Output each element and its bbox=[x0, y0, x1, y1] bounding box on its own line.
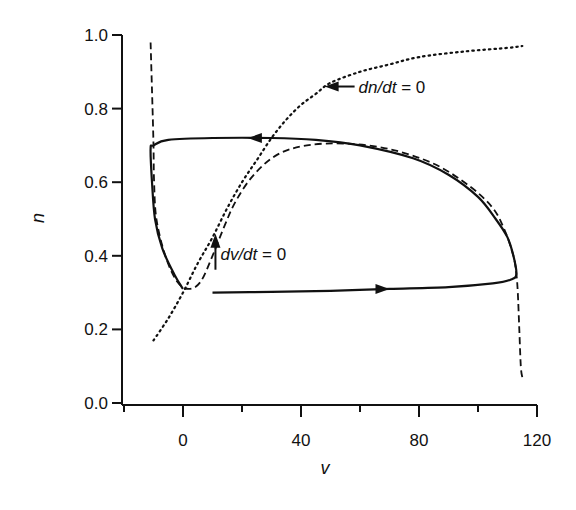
y-tick-label: 0.2 bbox=[84, 320, 108, 339]
y-tick-label: 0.0 bbox=[84, 394, 108, 413]
y-axis-label: n bbox=[28, 213, 48, 223]
axes bbox=[112, 35, 537, 417]
direction-arrow-icon bbox=[376, 284, 390, 294]
y-tick-label: 0.6 bbox=[84, 173, 108, 192]
x-tick-label: 80 bbox=[410, 431, 429, 450]
x-axis-label: v bbox=[321, 458, 331, 478]
dv-dt-label: dv/dt = 0 bbox=[220, 245, 286, 264]
x-tick-label: 40 bbox=[292, 431, 311, 450]
v-nullcline-curve bbox=[151, 42, 523, 377]
y-tick-label: 0.4 bbox=[84, 247, 108, 266]
y-tick-label: 0.8 bbox=[84, 100, 108, 119]
x-tick-label: 120 bbox=[523, 431, 551, 450]
tick-labels: 0.00.20.40.60.81.004080120 bbox=[84, 26, 551, 450]
phase-plane-chart: 0.00.20.40.60.81.004080120 dn/dt = 0dv/d… bbox=[0, 0, 576, 510]
y-tick-label: 1.0 bbox=[84, 26, 108, 45]
x-tick-label: 0 bbox=[178, 431, 187, 450]
curves bbox=[151, 42, 523, 377]
annotations: dn/dt = 0dv/dt = 0 bbox=[215, 78, 425, 270]
trajectory-curve bbox=[151, 138, 517, 293]
dn-dt-label: dn/dt = 0 bbox=[359, 78, 426, 97]
direction-arrow-icon bbox=[248, 133, 262, 143]
